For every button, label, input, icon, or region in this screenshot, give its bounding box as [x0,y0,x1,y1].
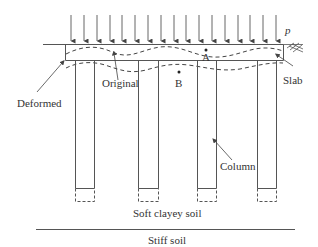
deformed-shape-lower [66,63,283,72]
load-label: p [284,24,291,36]
stiff-soil-label: Stiff soil [148,234,186,246]
original-label: Original [102,77,139,89]
column-1 [76,61,95,202]
point-b-marker [178,71,181,74]
column-label: Column [220,160,256,172]
column-2 [139,61,159,202]
deformed-shape-upper [66,47,283,57]
column-3 [198,61,217,202]
point-a-label: A [202,51,210,63]
fixed-support-icon [283,43,303,52]
deformed-label: Deformed [17,97,62,109]
slab-label: Slab [283,74,303,86]
diagram-canvas: p A B [0,0,318,247]
column-4 [258,61,277,202]
distributed-load-arrows [71,15,276,41]
slab [66,45,284,61]
point-b-label: B [175,77,182,89]
soft-soil-label: Soft clayey soil [133,207,201,219]
